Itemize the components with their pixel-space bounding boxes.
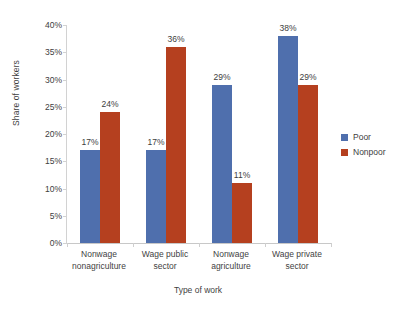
bar-slot: 29% (212, 25, 232, 243)
bar-slot: 36% (166, 25, 186, 243)
x-axis-tick-label-line: Nonwage (198, 249, 264, 261)
x-axis-tick-label: Wage privatesector (264, 249, 330, 272)
bar-value-label: 29% (299, 72, 316, 82)
bar-slot: 11% (232, 25, 252, 243)
bar-slot: 17% (80, 25, 100, 243)
x-axis-tick-label-line: agriculture (198, 261, 264, 273)
bar-value-label: 24% (101, 99, 118, 109)
bar-value-label: 11% (234, 170, 250, 180)
y-axis-tick-mark (63, 52, 67, 53)
x-axis-title: Type of work (66, 285, 330, 295)
y-axis-tick-mark (63, 189, 67, 190)
y-axis-tick-label: 25% (22, 102, 62, 112)
y-axis-tick-mark (63, 25, 67, 26)
bar-slot: 38% (278, 25, 298, 243)
x-axis-tick-label-line: sector (132, 261, 198, 273)
bar-value-label: 38% (279, 23, 296, 33)
y-axis-tick-label: 35% (22, 47, 62, 57)
legend-swatch-icon (341, 149, 348, 156)
legend-swatch-icon (341, 134, 348, 141)
y-axis-tick-label: 15% (22, 156, 62, 166)
bar-value-label: 17% (81, 137, 98, 147)
x-axis-tick-label: Nonwagenonagriculture (66, 249, 132, 272)
y-axis-tick-label: 5% (22, 211, 62, 221)
bar-poor[interactable]: 38% (278, 36, 298, 243)
y-axis-tick-label: 30% (22, 75, 62, 85)
bar-nonpoor[interactable]: 36% (166, 47, 186, 243)
y-axis-tick-labels: 0%5%10%15%20%25%30%35%40% (22, 18, 62, 246)
bar-poor[interactable]: 17% (146, 150, 166, 243)
y-axis-tick-mark (63, 216, 67, 217)
bar-value-label: 17% (147, 137, 164, 147)
bar-group: 17%24% (67, 25, 133, 243)
x-axis-tick-mark (133, 243, 134, 247)
y-axis-tick-mark (63, 107, 67, 108)
bar-slot: 17% (146, 25, 166, 243)
x-axis-tick-label: Nonwageagriculture (198, 249, 264, 272)
bar-groups: 17%24%17%36%29%11%38%29% (67, 25, 331, 243)
x-axis-tick-label-line: Nonwage (66, 249, 132, 261)
y-axis-tick-label: 0% (22, 238, 62, 248)
legend-label: Poor (353, 132, 371, 142)
y-axis-tick-label: 20% (22, 129, 62, 139)
legend-label: Nonpoor (353, 147, 386, 157)
y-axis-tick-label: 10% (22, 184, 62, 194)
bar-group: 38%29% (265, 25, 331, 243)
y-axis-tick-mark (63, 134, 67, 135)
x-axis-tick-label-line: sector (264, 261, 330, 273)
bar-nonpoor[interactable]: 11% (232, 183, 252, 243)
x-axis-tick-mark (331, 243, 332, 247)
bar-slot: 24% (100, 25, 120, 243)
legend-item-poor[interactable]: Poor (341, 131, 386, 143)
x-axis-tick-mark (67, 243, 68, 247)
y-axis-tick-mark (63, 80, 67, 81)
x-axis-tick-label-line: nonagriculture (66, 261, 132, 273)
y-axis-title: Share of workers (11, 33, 21, 153)
bar-value-label: 29% (213, 72, 230, 82)
bar-group: 17%36% (133, 25, 199, 243)
bar-poor[interactable]: 17% (80, 150, 100, 243)
bar-nonpoor[interactable]: 24% (100, 112, 120, 243)
bar-slot: 29% (298, 25, 318, 243)
bar-nonpoor[interactable]: 29% (298, 85, 318, 243)
y-axis-tick-label: 40% (22, 20, 62, 30)
x-axis-tick-mark (265, 243, 266, 247)
bar-value-label: 36% (167, 34, 184, 44)
bar-chart: Share of workers 0%5%10%15%20%25%30%35%4… (0, 0, 405, 312)
y-axis-tick-mark (63, 161, 67, 162)
bar-poor[interactable]: 29% (212, 85, 232, 243)
x-axis-tick-labels: NonwagenonagricultureWage publicsectorNo… (66, 249, 330, 272)
chart-legend: PoorNonpoor (341, 131, 386, 161)
x-axis-tick-label-line: Wage private (264, 249, 330, 261)
legend-item-nonpoor[interactable]: Nonpoor (341, 146, 386, 158)
bar-group: 29%11% (199, 25, 265, 243)
plot-area: 17%24%17%36%29%11%38%29% (66, 25, 331, 244)
x-axis-tick-mark (199, 243, 200, 247)
x-axis-tick-label: Wage publicsector (132, 249, 198, 272)
x-axis-tick-label-line: Wage public (132, 249, 198, 261)
